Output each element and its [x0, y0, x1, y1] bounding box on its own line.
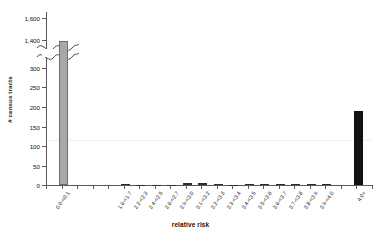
x-axis-tick-label: 4.0+ [356, 190, 367, 202]
y-tick-label-300: 300 [0, 65, 40, 72]
y-tick-label-0: 0 [0, 182, 40, 189]
x-axis-tick [77, 185, 78, 189]
x-axis-tick-label: 2.4-<2.5 [148, 190, 165, 210]
x-axis-tick [62, 185, 63, 189]
x-axis-tick [232, 185, 233, 189]
x-axis-tick [263, 185, 264, 189]
y-tick-label-50: 50 [0, 163, 40, 170]
x-axis-tick [201, 185, 202, 189]
bars-container [46, 12, 372, 185]
x-axis-tick [341, 185, 342, 189]
x-axis-tick [186, 185, 187, 189]
bar [229, 185, 238, 186]
x-axis-tick-label: 2.2-<2.3 [132, 190, 149, 210]
x-axis-tick-label: 0.0-<0.1 [54, 190, 71, 210]
bar [307, 184, 316, 185]
bar [183, 183, 192, 185]
x-axis-tick [139, 185, 140, 189]
x-axis-tick [372, 185, 373, 189]
x-axis-tick-label: 2.6-<2.7 [163, 190, 180, 210]
x-axis-tick [170, 185, 171, 189]
bar [245, 184, 254, 185]
x-axis-tick [294, 185, 295, 189]
bar [354, 111, 363, 185]
y-tick-label-150: 150 [0, 124, 40, 131]
x-axis-tick-label: 3.3-<3.4 [225, 190, 242, 210]
x-axis-tick-label: 3.8-<3.9 [303, 190, 320, 210]
y-tick-label-100: 100 [0, 143, 40, 150]
x-axis-tick [217, 185, 218, 189]
bar [121, 184, 130, 185]
x-axis-tick [93, 185, 94, 189]
bar [59, 41, 68, 185]
bar [322, 184, 331, 185]
x-axis-tick [310, 185, 311, 189]
x-axis-tick-label: 3.6-<3.7 [272, 190, 289, 210]
x-axis-tick [248, 185, 249, 189]
bar [198, 183, 207, 185]
x-axis-tick-label: 3.1-<3.2 [194, 190, 211, 210]
x-axis-tick [356, 185, 357, 189]
bar [276, 184, 285, 185]
bar [291, 184, 300, 185]
x-axis-tick-label: 3.5-<3.6 [256, 190, 273, 210]
x-axis-tick [46, 185, 47, 189]
bar [152, 185, 161, 186]
x-axis-tick-label: 1.6-<1.7 [116, 190, 133, 210]
x-axis-tick [155, 185, 156, 189]
x-axis-tick-label: 3.7-<3.8 [287, 190, 304, 210]
x-axis-tick [108, 185, 109, 189]
y-tick-label-200: 200 [0, 104, 40, 111]
bar [214, 184, 223, 185]
y-tick-label-1400: 1,400 [0, 37, 40, 44]
y-tick-label-250: 250 [0, 84, 40, 91]
x-axis-tick [279, 185, 280, 189]
bar [136, 185, 145, 186]
y-tick-label-1600: 1,600 [0, 15, 40, 22]
bar [167, 185, 176, 186]
x-axis-tick-label: 3.4-<3.5 [241, 190, 258, 210]
bar-chart: # census tracts 1,600 1,400 300 250 200 … [0, 0, 381, 243]
x-axis-tick [124, 185, 125, 189]
x-axis-tick-label: 2.9-<3.0 [179, 190, 196, 210]
x-axis-title: relative risk [0, 221, 381, 228]
bar [260, 184, 269, 185]
x-axis-tick-label: 3.2-<3.3 [210, 190, 227, 210]
x-axis-tick [325, 185, 326, 189]
x-axis-tick-label: 3.9-<4.0 [318, 190, 335, 210]
